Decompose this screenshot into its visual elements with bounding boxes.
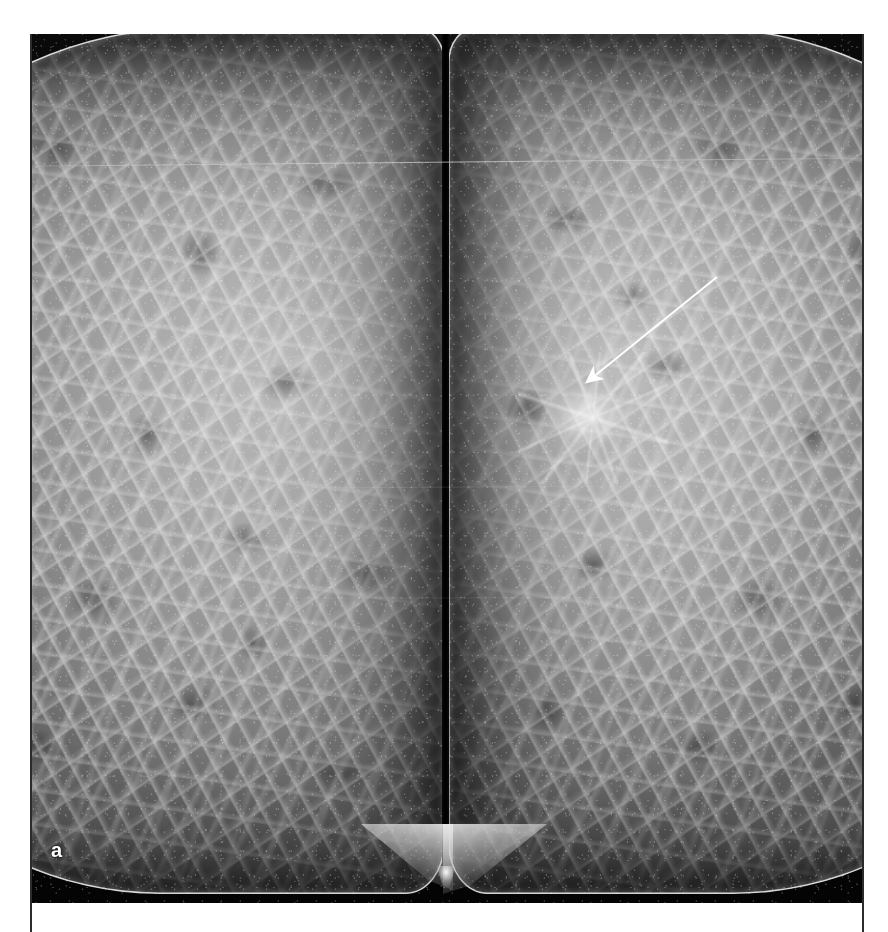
right-breast-cc-image[interactable] — [448, 34, 863, 894]
panel-label-a: a — [51, 840, 62, 860]
right-breast-trabeculae-secondary — [448, 34, 863, 894]
left-breast-cc-image[interactable] — [31, 34, 445, 894]
figure-sheet: a — [0, 0, 888, 932]
mammogram-plate[interactable]: a — [31, 34, 863, 903]
figure-caption-area — [31, 905, 863, 932]
figure-frame-rule-left — [30, 34, 32, 932]
left-breast-trabeculae-secondary — [31, 34, 445, 894]
figure-frame-rule-right — [862, 34, 864, 932]
image-divider-gutter — [442, 34, 449, 880]
